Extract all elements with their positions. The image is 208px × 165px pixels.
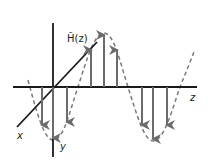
- x-axis: [17, 42, 97, 127]
- wave-diagram: H̃(z) x y z: [0, 0, 208, 165]
- x-axis-label: x: [16, 130, 23, 141]
- y-axis-label: y: [59, 141, 67, 152]
- down-arrows-first: [42, 87, 67, 138]
- z-axis-label: z: [189, 92, 196, 103]
- up-arrows: [91, 35, 117, 87]
- field-label: H̃(z): [67, 32, 88, 44]
